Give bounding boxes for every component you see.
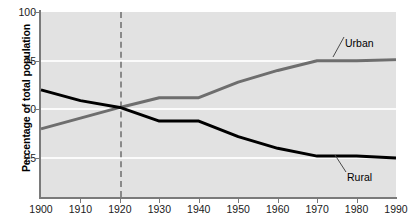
x-tick-mark-1950	[238, 198, 239, 203]
x-axis-line	[39, 197, 397, 199]
x-tick-mark-1960	[278, 198, 279, 203]
leader-line-urban	[333, 37, 344, 57]
chart-figure: Percentage of total population 100755025…	[0, 0, 414, 223]
x-tick-label-1980: 1980	[335, 204, 379, 215]
x-tick-label-1960: 1960	[256, 204, 300, 215]
y-tick-label-25: 25	[2, 153, 36, 164]
x-tick-mark-1980	[357, 198, 358, 203]
series-layer	[41, 12, 396, 197]
x-tick-label-1930: 1930	[137, 204, 181, 215]
x-tick-mark-1920	[120, 198, 121, 203]
x-tick-label-1910: 1910	[58, 204, 102, 215]
x-tick-label-1940: 1940	[177, 204, 221, 215]
y-axis-tick-labels: 100755025	[0, 0, 36, 223]
series-line-urban	[41, 60, 396, 129]
x-tick-label-1990: 1990	[374, 204, 414, 215]
x-tick-mark-1930	[159, 198, 160, 203]
series-line-rural	[41, 90, 396, 158]
x-tick-label-1900: 1900	[19, 204, 63, 215]
y-tick-label-100: 100	[2, 7, 36, 18]
x-tick-label-1920: 1920	[98, 204, 142, 215]
series-annotation-rural: Rural	[347, 172, 372, 183]
x-tick-mark-1970	[317, 198, 318, 203]
y-tick-label-75: 75	[2, 56, 36, 67]
x-tick-mark-1910	[80, 198, 81, 203]
x-tick-label-1970: 1970	[295, 204, 339, 215]
series-annotation-urban: Urban	[345, 38, 374, 49]
x-tick-label-1950: 1950	[216, 204, 260, 215]
y-tick-label-50: 50	[2, 104, 36, 115]
x-tick-mark-1940	[199, 198, 200, 203]
